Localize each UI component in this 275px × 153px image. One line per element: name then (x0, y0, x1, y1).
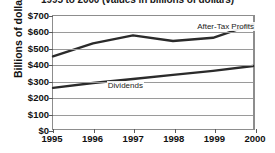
y-tick-label: $700 (7, 10, 49, 21)
plot-area (52, 15, 255, 130)
x-tick-label: 1999 (204, 133, 225, 144)
x-tick-label: 1995 (41, 133, 62, 144)
y-tick-label: $400 (7, 59, 49, 70)
x-tick-label: 1997 (123, 133, 144, 144)
y-tick-mark (49, 98, 53, 99)
series-annotation-label: Dividends (107, 81, 144, 90)
y-tick-label: $200 (7, 92, 49, 103)
y-tick-label: $500 (7, 42, 49, 53)
y-tick-label: $100 (7, 108, 49, 119)
y-tick-mark (49, 82, 53, 83)
x-tick-label: 2000 (244, 133, 265, 144)
y-tick-mark (49, 32, 53, 33)
y-tick-mark (49, 16, 53, 17)
x-tick-label: 1998 (163, 133, 184, 144)
y-tick-mark (49, 115, 53, 116)
gridline (53, 65, 253, 66)
x-tick-label: 1996 (82, 133, 103, 144)
y-axis-ticks: $0$100$200$300$400$500$600$700 (0, 0, 49, 153)
y-tick-label: $600 (7, 26, 49, 37)
series-annotation-label: After-Tax Profits (196, 22, 255, 31)
y-tick-mark (49, 65, 53, 66)
gridline (53, 32, 253, 33)
gridline (53, 98, 253, 99)
gridline (53, 82, 253, 83)
gridline (53, 115, 253, 116)
series-line (53, 66, 253, 88)
line-chart: 1995 to 2000 (values in billions of doll… (0, 0, 275, 153)
y-tick-mark (49, 49, 53, 50)
gridline (53, 49, 253, 50)
y-tick-label: $300 (7, 75, 49, 86)
